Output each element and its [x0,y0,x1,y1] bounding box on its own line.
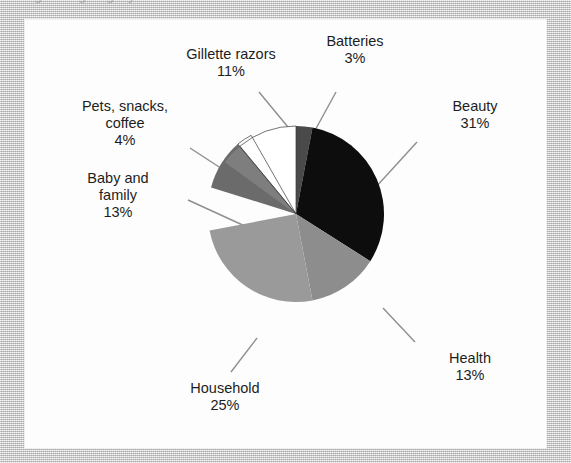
pie-label-baby-and-family-name-line2: family [53,187,183,204]
pie-label-beauty-value: 31% [420,115,530,132]
pie-label-batteries: Batteries 3% [300,33,410,67]
caption-text: ngu e o gategory [26,0,571,1]
pie-label-beauty: Beauty 31% [420,98,530,132]
pie-slice-household [210,214,313,302]
pie-label-health-name: Health [415,350,525,367]
cropped-figure-caption: ngu e o gategory [0,0,571,14]
leader-line-health [383,308,415,342]
pie-label-household: Household 25% [150,380,300,414]
pie-label-pets-snacks-coffee: Pets, snacks, coffee 4% [55,98,195,149]
pie-label-health-value: 13% [415,367,525,384]
pie-label-pets-snacks-coffee-name-line2: coffee [55,115,195,132]
pie-label-baby-and-family-value: 13% [53,204,183,221]
pie-label-batteries-value: 3% [300,50,410,67]
pie-graphic [206,124,386,304]
pie-label-household-name: Household [150,380,300,397]
pie-label-baby-and-family-name-line1: Baby and [53,170,183,187]
pie-label-beauty-name: Beauty [420,98,530,115]
pie-label-pets-snacks-coffee-value: 4% [55,132,195,149]
pie-label-health: Health 13% [415,350,525,384]
pie-label-gillette-razors: Gillette razors 11% [156,46,306,80]
pie-svg [206,124,386,304]
pie-label-batteries-name: Batteries [300,33,410,50]
pie-label-gillette-razors-value: 11% [156,63,306,80]
leader-line-household [231,338,257,372]
pie-slices [210,126,384,302]
pie-label-gillette-razors-name: Gillette razors [156,46,306,63]
pie-label-pets-snacks-coffee-name-line1: Pets, snacks, [55,98,195,115]
chart-panel: Gillette razors 11% Batteries 3% Beauty … [25,20,546,448]
pie-label-baby-and-family: Baby and family 13% [53,170,183,221]
pie-chart-plot-area: Gillette razors 11% Batteries 3% Beauty … [25,20,546,448]
pie-label-household-value: 25% [150,397,300,414]
